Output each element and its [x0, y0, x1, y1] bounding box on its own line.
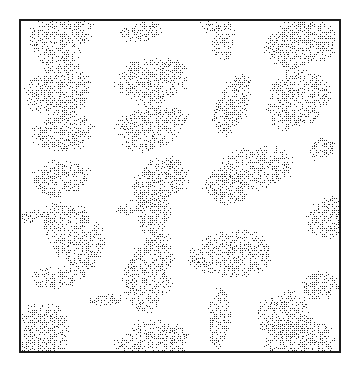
- figure-root: [0, 0, 361, 371]
- plot-frame-border: [19, 19, 341, 353]
